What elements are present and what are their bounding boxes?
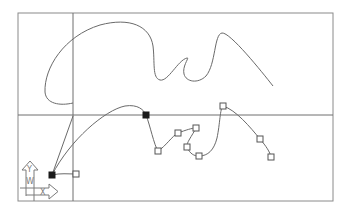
- grip-icon[interactable]: [220, 103, 226, 109]
- ucs-y-label: Y: [26, 165, 32, 174]
- drawing-canvas[interactable]: Y W X: [0, 0, 348, 211]
- canvas-background: [0, 0, 348, 211]
- grip-icon[interactable]: [257, 136, 263, 142]
- grip-hot-icon[interactable]: [143, 112, 149, 118]
- grip-icon[interactable]: [184, 144, 190, 150]
- grip-icon[interactable]: [73, 171, 79, 177]
- grip-icon[interactable]: [155, 148, 161, 154]
- ucs-x-label: X: [40, 188, 46, 197]
- ucs-w-label: W: [26, 177, 34, 186]
- grip-icon[interactable]: [196, 153, 202, 159]
- grip-icon[interactable]: [268, 154, 274, 160]
- grip-icon[interactable]: [193, 125, 199, 131]
- grip-hot-icon[interactable]: [49, 172, 55, 178]
- grip-icon[interactable]: [175, 130, 181, 136]
